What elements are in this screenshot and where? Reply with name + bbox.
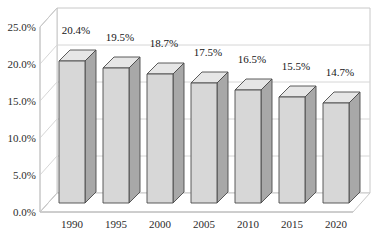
- bar-value-label: 16.5%: [238, 53, 266, 65]
- left-wall: [40, 8, 57, 212]
- y-tick-label-25: 25.0%: [8, 21, 36, 33]
- y-tick-label-0: 0.0%: [13, 206, 36, 218]
- bar-side-face: [173, 63, 184, 203]
- bar-side-face: [217, 72, 228, 203]
- bar-value-label: 18.7%: [150, 37, 178, 49]
- bar-front-face: [59, 61, 85, 203]
- bar-front-face: [103, 68, 129, 203]
- x-tick-label-2005: 2005: [193, 218, 216, 230]
- x-tick-label-2010: 2010: [237, 218, 260, 230]
- bar-value-label: 17.5%: [194, 46, 222, 58]
- y-tick-label-15: 15.0%: [8, 95, 36, 107]
- bar-side-face: [129, 57, 140, 203]
- bar-front-face: [235, 90, 261, 203]
- x-axis: 1990 1995 2000 2005 2010 2015 2020: [61, 218, 348, 230]
- x-tick-label-2015: 2015: [281, 218, 304, 230]
- bar-value-label: 15.5%: [282, 60, 310, 72]
- bar-value-label: 14.7%: [326, 66, 354, 78]
- x-tick-label-2000: 2000: [149, 218, 172, 230]
- bar-front-face: [323, 103, 349, 203]
- bar-chart: 25.0% 20.0% 15.0% 10.0% 5.0% 0.0% 20.4% …: [0, 0, 385, 249]
- bar-value-label: 19.5%: [106, 31, 134, 43]
- bar-side-face: [305, 86, 316, 203]
- y-tick-label-5: 5.0%: [13, 169, 36, 181]
- bar-side-face: [349, 92, 360, 203]
- bar-front-face: [279, 97, 305, 203]
- bar-front-face: [191, 83, 217, 203]
- bar-value-label: 20.4%: [62, 24, 90, 36]
- x-tick-label-1995: 1995: [105, 218, 128, 230]
- bar-side-face: [261, 79, 272, 203]
- x-tick-label-1990: 1990: [61, 218, 84, 230]
- y-tick-label-10: 10.0%: [8, 132, 36, 144]
- y-tick-label-20: 20.0%: [8, 58, 36, 70]
- bar-front-face: [147, 74, 173, 203]
- x-tick-label-2020: 2020: [325, 218, 348, 230]
- y-axis: 25.0% 20.0% 15.0% 10.0% 5.0% 0.0%: [8, 21, 36, 218]
- chart-canvas: 25.0% 20.0% 15.0% 10.0% 5.0% 0.0% 20.4% …: [0, 0, 385, 249]
- bar-side-face: [85, 50, 96, 203]
